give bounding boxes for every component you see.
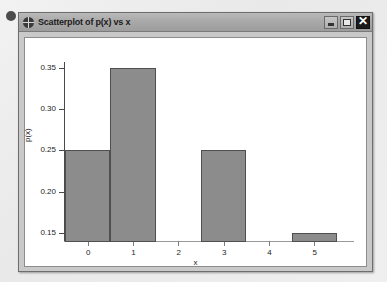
maximize-button[interactable] [340,16,354,29]
x-tick-label: 5 [313,248,317,257]
close-button[interactable]: ✕ [356,16,370,29]
page-background: Scatterplot of p(x) vs x ✕ p(x) 0.150.20… [0,0,387,282]
close-icon: ✕ [358,15,368,27]
y-tick: 0.15 [59,233,64,234]
window-controls: ✕ [324,16,370,29]
bar-5 [292,233,337,242]
x-axis-label: x [25,258,366,267]
y-tick: 0.35 [59,68,64,69]
y-tick: 0.25 [59,150,64,151]
minimize-icon [328,23,334,26]
y-tick-label: 0.15 [40,228,56,237]
bar-3 [201,150,246,242]
x-tick-label: 3 [222,248,226,257]
window-title: Scatterplot of p(x) vs x [38,17,324,27]
x-tick-label: 0 [86,248,90,257]
y-tick: 0.20 [59,192,64,193]
y-axis-label: p(x) [23,128,32,142]
bullet-dot-icon [6,11,16,21]
maximize-icon [343,19,351,26]
y-tick: 0.30 [59,109,64,110]
y-tick-label: 0.25 [40,145,56,154]
y-tick-label: 0.20 [40,187,56,196]
x-tick-label: 1 [131,248,135,257]
crosshair-circle-icon [23,17,34,28]
plot-area [65,62,337,242]
y-tick-label: 0.35 [40,63,56,72]
bar-1 [110,68,155,242]
x-tick-label: 4 [267,248,271,257]
minimize-button[interactable] [324,16,338,29]
x-tick-label: 2 [177,248,181,257]
chart-panel: p(x) 0.150.200.250.300.35 012345 x [24,37,367,267]
window-titlebar[interactable]: Scatterplot of p(x) vs x ✕ [19,13,372,32]
plot-window: Scatterplot of p(x) vs x ✕ p(x) 0.150.20… [18,12,373,272]
y-tick-label: 0.30 [40,104,56,113]
bar-0 [65,150,110,242]
